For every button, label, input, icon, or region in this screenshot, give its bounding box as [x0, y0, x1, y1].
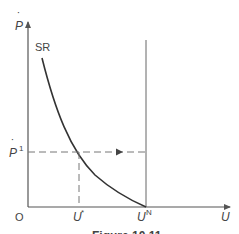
p1-label: P ˙ 1 — [9, 137, 24, 160]
phillips-curve-diagram: P ˙ SR P ˙ 1 O U * U N U Figure 10.11 — [0, 0, 239, 234]
svg-text:N: N — [146, 208, 152, 217]
sr-curve — [42, 58, 146, 207]
right-arrow-icon — [116, 149, 123, 156]
svg-text:˙: ˙ — [17, 10, 21, 24]
svg-text:*: * — [81, 208, 84, 217]
un-label: U N — [137, 208, 152, 224]
svg-text:˙: ˙ — [11, 137, 15, 151]
x-axis-label: U — [221, 210, 230, 224]
u-star-label: U * — [73, 208, 84, 224]
figure-caption: Figure 10.11 — [92, 229, 162, 234]
origin-label: O — [15, 211, 24, 223]
svg-text:U: U — [137, 210, 146, 224]
svg-text:1: 1 — [19, 144, 24, 153]
sr-curve-label: SR — [35, 41, 50, 53]
y-axis-label: P ˙ — [15, 10, 23, 33]
